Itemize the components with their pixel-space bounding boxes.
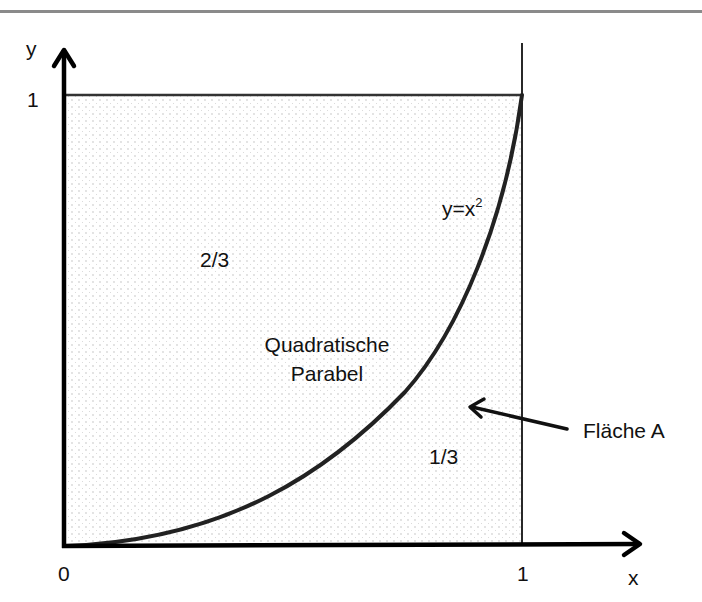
upper-area-fraction: 2/3 xyxy=(200,249,229,270)
equation-exponent: 2 xyxy=(475,195,482,210)
y-axis-label: y xyxy=(26,38,37,59)
x-tick-0: 0 xyxy=(58,563,70,584)
x-axis-label: x xyxy=(628,567,639,588)
area-a-label: Fläche A xyxy=(583,420,665,441)
equation-base: y=x xyxy=(442,197,475,220)
x-tick-1: 1 xyxy=(517,563,529,584)
curve-name-line2: Parabel xyxy=(262,363,392,384)
x-axis xyxy=(62,544,640,546)
y-tick-1: 1 xyxy=(27,89,39,110)
diagram-canvas xyxy=(0,0,702,602)
lower-area-fraction: 1/3 xyxy=(429,446,458,467)
curve-equation: y=x2 xyxy=(442,198,483,219)
curve-name: Quadratische Parabel xyxy=(262,334,392,384)
curve-name-line1: Quadratische xyxy=(262,334,392,355)
